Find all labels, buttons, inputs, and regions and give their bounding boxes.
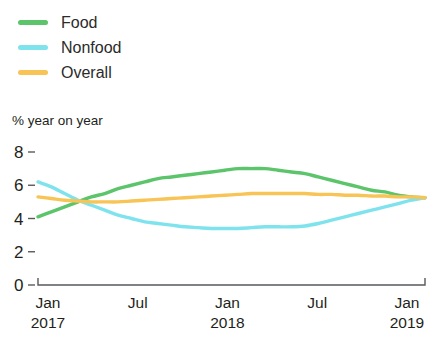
y-tick-label: 4 [14,210,23,229]
series-line-food [38,169,425,217]
x-tick-label-year: 2019 [390,314,424,331]
y-tick-label: 0 [14,276,23,295]
x-tick-label-month: Jul [307,294,327,311]
x-tick-label-month: Jan [395,294,420,311]
x-tick-label-month: Jul [128,294,148,311]
chart-plot-area: 02468 Jan2017JulJan2018JulJan2019 [0,0,429,337]
y-axis-tick-labels: 02468 [14,143,23,295]
x-tick-label-year: 2018 [210,314,244,331]
y-tick-label: 8 [14,143,23,162]
chart-series-lines [38,169,425,229]
y-tick-label: 6 [14,176,23,195]
y-tick-label: 2 [14,243,23,262]
chart-figure: Food Nonfood Overall % year on year 0246… [0,0,429,337]
x-tick-label-month: Jan [215,294,240,311]
x-axis-line [38,278,425,285]
x-axis-tick-labels: Jan2017JulJan2018JulJan2019 [31,294,424,331]
x-tick-label-year: 2017 [31,314,65,331]
y-axis-ticks [28,152,35,285]
x-tick-label-month: Jan [36,294,61,311]
x-axis [38,278,425,285]
